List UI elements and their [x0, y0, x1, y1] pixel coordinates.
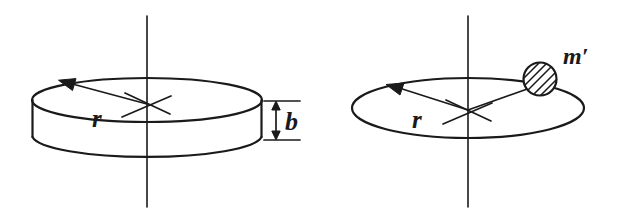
thickness-arrowhead-up — [272, 101, 280, 110]
radius-label-left: r — [92, 105, 102, 132]
left-panel-solid-disk: r b — [32, 16, 300, 207]
point-mass-circle — [516, 56, 566, 104]
right-panel-ring-point-mass: r m′ — [352, 16, 588, 207]
thickness-arrowhead-down — [272, 131, 280, 140]
point-mass-label: m′ — [563, 43, 588, 69]
radius-vector-left — [65, 82, 147, 104]
radius-vector-right — [393, 86, 468, 110]
physics-figure-canvas: r b — [0, 0, 619, 217]
radius-arrowhead-right — [386, 83, 404, 95]
thickness-label: b — [285, 107, 298, 136]
radius-label-right: r — [412, 106, 422, 133]
figure-svg: r b — [0, 0, 619, 217]
